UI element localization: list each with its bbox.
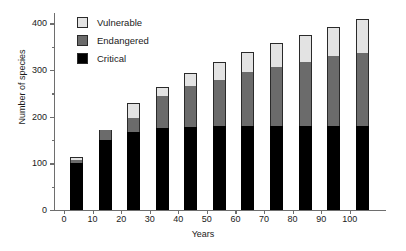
x-tick-label: 40 [173,214,183,224]
x-tick-label: 50 [202,214,212,224]
x-axis-line [54,210,386,211]
bar-segment-critical [356,126,369,210]
x-tick-label: 20 [116,214,126,224]
bar-segment-vulnerable [156,87,169,96]
bar-segment-endangered [356,53,369,126]
x-axis-title: Years [0,229,406,239]
legend-item: Critical [77,50,149,66]
bar-segment-critical [127,132,140,210]
bar-segment-endangered [327,56,340,126]
bar [327,27,340,210]
bar-segment-endangered [299,62,312,126]
stacked-bar-chart-figure: Number of species Years 0100200300400 Vu… [0,0,406,251]
bar [70,157,83,210]
y-tick-label: 0 [42,205,47,215]
bar-segment-endangered [270,67,283,126]
bar-segment-vulnerable [270,43,283,66]
legend-label: Critical [97,53,126,64]
bar [127,103,140,210]
bar-segment-vulnerable [184,73,197,86]
bar-segment-critical [241,126,254,210]
bar-segment-endangered [99,130,112,140]
bar [356,19,369,210]
x-tick-label: 60 [230,214,240,224]
bar [99,130,112,210]
x-tick-label: 80 [288,214,298,224]
chart-legend: VulnerableEndangeredCritical [77,14,149,68]
bar-segment-critical [184,127,197,210]
bar [184,73,197,210]
bar [270,43,283,210]
legend-item: Vulnerable [77,14,149,30]
x-tick-label: 30 [145,214,155,224]
bar-segment-critical [156,128,169,210]
bar-segment-endangered [127,118,140,132]
bar-segment-endangered [184,86,197,127]
y-tick-label: 300 [32,65,47,75]
bar-segment-critical [70,163,83,210]
bar-segment-critical [99,140,112,210]
bar-segment-vulnerable [241,52,254,73]
y-axis-title: Number of species [17,27,27,147]
x-tick-label: 0 [61,214,66,224]
x-tick-label: 10 [88,214,98,224]
bar [241,52,254,210]
bar [213,62,226,210]
x-tick-label: 70 [259,214,269,224]
bar-segment-vulnerable [327,27,340,56]
y-tick-major [50,210,55,211]
bar-segment-critical [327,126,340,210]
y-tick-label: 100 [32,158,47,168]
critical-swatch-icon [77,53,88,64]
bar-segment-vulnerable [299,35,312,62]
bar-segment-critical [299,126,312,210]
bar-segment-vulnerable [213,62,226,81]
vulnerable-swatch-icon [77,17,88,28]
x-tick-label: 90 [316,214,326,224]
bar-segment-endangered [156,96,169,129]
bar-segment-endangered [241,72,254,126]
endangered-swatch-icon [77,35,88,46]
bar [299,35,312,210]
bar-segment-critical [213,126,226,210]
bar-segment-vulnerable [127,103,140,118]
bar-segment-endangered [213,80,226,126]
x-tick-label: 100 [342,214,357,224]
y-tick-label: 400 [32,18,47,28]
bar [156,87,169,210]
bar-segment-vulnerable [356,19,369,53]
legend-label: Endangered [97,35,149,46]
legend-label: Vulnerable [97,17,142,28]
legend-item: Endangered [77,32,149,48]
bar-segment-critical [270,126,283,210]
y-tick-label: 200 [32,112,47,122]
